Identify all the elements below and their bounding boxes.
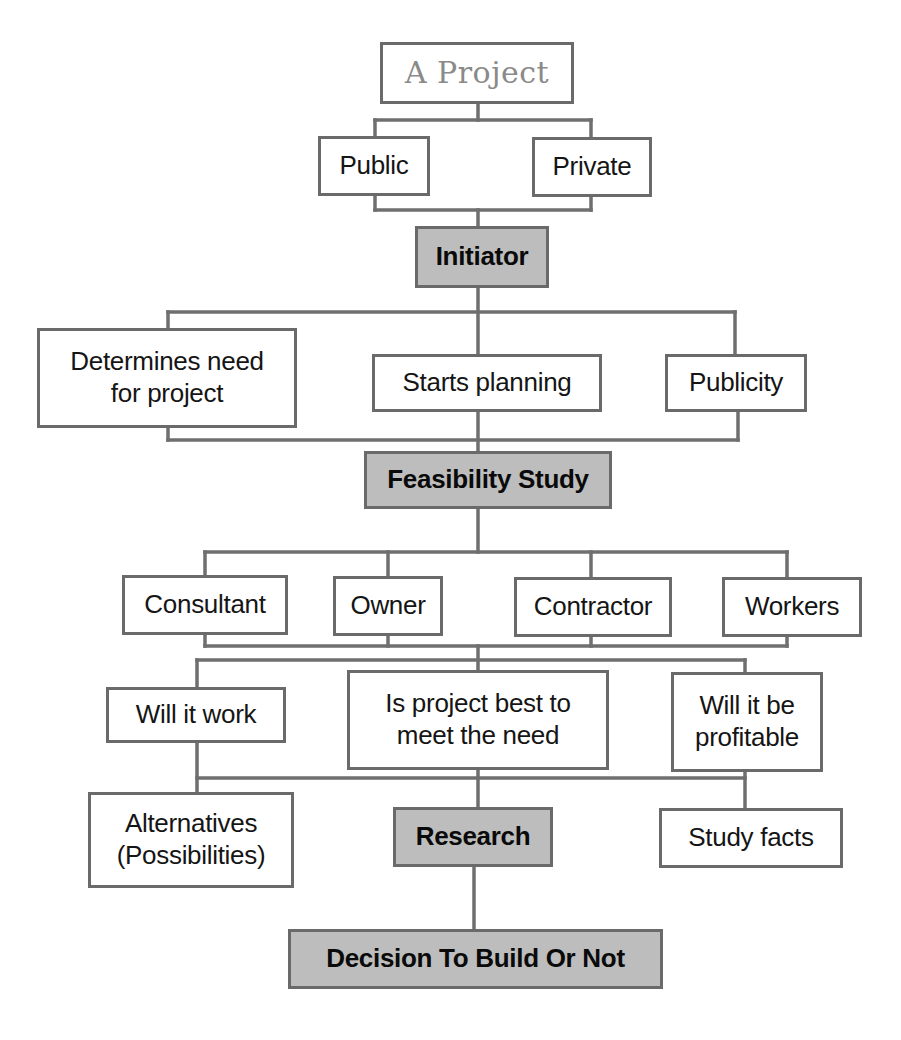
node-private: Private [532, 137, 652, 197]
node-label: Consultant [144, 589, 265, 621]
node-label: Feasibility Study [387, 464, 589, 496]
node-label: A Project [405, 55, 549, 92]
node-label: Workers [745, 591, 839, 623]
node-label: Study facts [688, 822, 813, 854]
node-starts-planning: Starts planning [372, 354, 602, 412]
node-alternatives: Alternatives (Possibilities) [88, 792, 294, 888]
node-label: Public [339, 150, 408, 182]
node-a-project: A Project [380, 42, 574, 104]
node-is-project-best: Is project best to meet the need [347, 670, 609, 770]
node-public: Public [318, 136, 430, 196]
node-will-it-work: Will it work [106, 687, 286, 743]
node-label: Owner [350, 590, 425, 622]
node-label: Private [553, 151, 632, 183]
node-label: Is project best to meet the need [385, 688, 570, 751]
node-will-it-be-profitable: Will it be profitable [671, 672, 823, 772]
node-consultant: Consultant [122, 575, 288, 635]
node-determines-need: Determines need for project [37, 328, 297, 428]
project-flowchart: A Project Public Private Initiator Deter… [0, 0, 901, 1040]
node-label: Starts planning [403, 367, 572, 399]
node-label: Initiator [436, 241, 529, 273]
node-label: Will it work [136, 699, 257, 731]
node-research: Research [393, 807, 553, 867]
node-label: Contractor [534, 591, 652, 623]
node-workers: Workers [722, 577, 862, 637]
node-label: Will it be profitable [695, 690, 799, 753]
node-label: Publicity [689, 367, 783, 399]
node-label: Determines need for project [70, 346, 264, 409]
node-initiator: Initiator [415, 226, 549, 288]
node-decision: Decision To Build Or Not [288, 929, 663, 989]
node-label: Alternatives (Possibilities) [117, 808, 266, 871]
node-label: Research [416, 821, 531, 853]
node-owner: Owner [333, 576, 443, 636]
node-publicity: Publicity [665, 354, 807, 412]
node-feasibility-study: Feasibility Study [364, 451, 612, 509]
node-label: Decision To Build Or Not [326, 943, 625, 975]
node-contractor: Contractor [514, 577, 672, 637]
node-study-facts: Study facts [659, 808, 843, 868]
